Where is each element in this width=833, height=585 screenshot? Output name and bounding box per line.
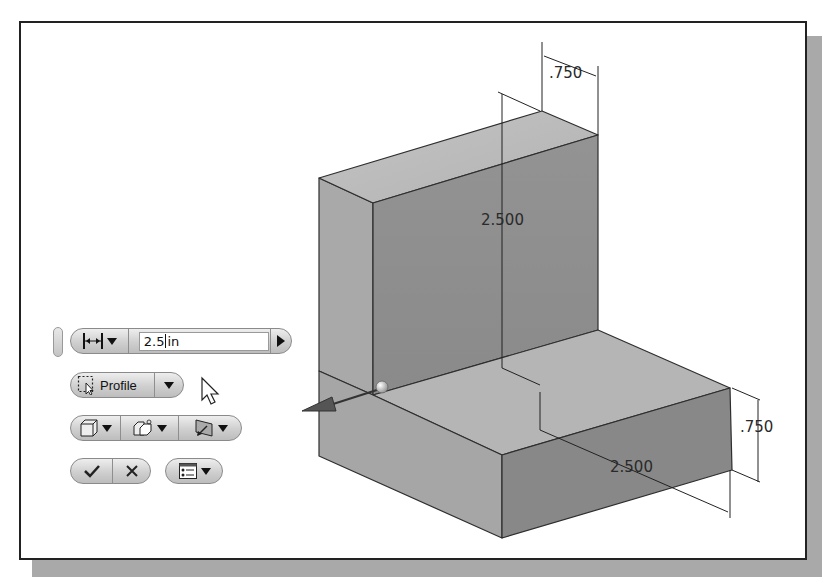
select-profile-icon — [77, 375, 97, 395]
chevron-down-icon — [164, 382, 174, 389]
distance-mode-dropdown[interactable] — [71, 329, 129, 353]
output-dropdown[interactable] — [71, 416, 121, 440]
distance-units: in — [167, 333, 179, 350]
distance-value: 2.5 — [144, 333, 165, 350]
chevron-down-icon — [201, 468, 211, 475]
distance-row: 2.5in — [70, 328, 292, 354]
profile-dropdown[interactable] — [155, 373, 183, 397]
mouse-pointer-icon — [202, 378, 218, 404]
apply-arrow-button[interactable] — [271, 329, 291, 353]
l-bracket-model[interactable] — [319, 111, 732, 538]
direction-icon — [193, 418, 215, 438]
toolbar-grip-handle[interactable] — [53, 327, 63, 357]
join-operation-icon — [132, 419, 154, 437]
dim-vertical-height[interactable]: 2.500 — [481, 211, 524, 229]
x-icon — [125, 464, 139, 478]
profile-label: Profile — [100, 378, 137, 393]
options-menu-row — [165, 458, 223, 484]
checkmark-icon — [83, 463, 101, 479]
options-list-icon — [178, 462, 198, 480]
dim-top-thickness[interactable]: .750 — [549, 64, 582, 82]
profile-button[interactable]: Profile — [71, 373, 155, 397]
drag-handle-ball[interactable] — [376, 381, 388, 393]
ok-button[interactable] — [71, 459, 113, 483]
direction-dropdown[interactable] — [179, 416, 241, 440]
chevron-down-icon — [218, 425, 228, 432]
options-row — [70, 415, 242, 441]
graphics-viewport[interactable]: .750 2.500 2.500 .750 — [0, 0, 833, 585]
operation-dropdown[interactable] — [121, 416, 179, 440]
play-arrow-icon — [277, 335, 285, 347]
linear-distance-icon — [82, 332, 104, 350]
chevron-down-icon — [157, 425, 167, 432]
chevron-down-icon — [107, 338, 117, 345]
options-menu-dropdown[interactable] — [166, 459, 222, 483]
distance-input-wrap: 2.5in — [129, 329, 271, 353]
cancel-button[interactable] — [113, 459, 150, 483]
dim-base-thickness[interactable]: .750 — [740, 418, 773, 436]
text-caret — [165, 334, 166, 348]
confirm-row — [70, 458, 151, 484]
distance-input[interactable]: 2.5in — [139, 332, 269, 351]
dim-base-length[interactable]: 2.500 — [610, 458, 653, 476]
chevron-down-icon — [102, 425, 112, 432]
solid-output-icon — [79, 419, 99, 437]
profile-row: Profile — [70, 372, 184, 398]
